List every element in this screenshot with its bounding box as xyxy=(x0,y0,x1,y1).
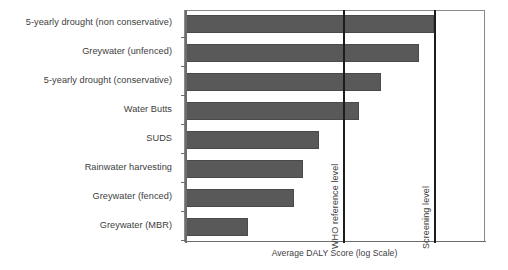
axis-tick xyxy=(181,37,185,38)
axis-tick xyxy=(181,66,185,67)
category-axis-labels: 5-yearly drought (non conservative) Grey… xyxy=(0,10,178,242)
bar xyxy=(185,73,381,91)
bar xyxy=(185,218,248,236)
plot-inner: WHO reference level Screening level xyxy=(185,11,484,241)
bar-chart: 5-yearly drought (non conservative) Grey… xyxy=(0,0,508,270)
axis-tick xyxy=(181,240,185,241)
bar xyxy=(185,44,419,62)
axis-tick xyxy=(181,211,185,212)
screening-level-line xyxy=(434,10,436,243)
bar xyxy=(185,131,319,149)
category-label: Greywater (MBR) xyxy=(0,220,172,231)
bar xyxy=(185,15,434,33)
axis-tick xyxy=(181,182,185,183)
category-label: Rainwater harvesting xyxy=(0,162,172,173)
category-label: Greywater (fenced) xyxy=(0,191,172,202)
category-label: 5-yearly drought (conservative) xyxy=(0,75,172,86)
axis-tick xyxy=(181,95,185,96)
who-reference-level-label: WHO reference level xyxy=(330,164,340,249)
bar xyxy=(185,102,359,120)
category-label: 5-yearly drought (non conservative) xyxy=(0,17,172,28)
category-label: Water Butts xyxy=(0,104,172,115)
who-reference-level-line xyxy=(343,10,345,243)
bar xyxy=(185,160,303,178)
bar xyxy=(185,189,294,207)
screening-level-label: Screening level xyxy=(421,186,431,249)
plot-area: WHO reference level Screening level xyxy=(184,10,485,242)
axis-tick xyxy=(181,153,185,154)
category-label: SUDS xyxy=(0,133,172,144)
axis-tick xyxy=(181,124,185,125)
x-axis-title: Average DALY Score (log Scale) xyxy=(184,248,485,258)
category-label: Greywater (unfenced) xyxy=(0,46,172,57)
y-axis-line xyxy=(185,10,187,243)
